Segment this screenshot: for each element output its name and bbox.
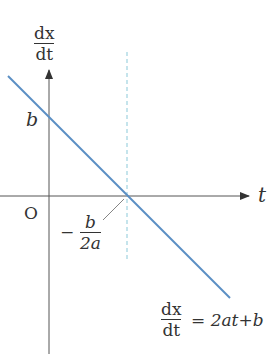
diagram: dx dt t O b − b 2a dx dt = 2at+b	[0, 0, 279, 354]
x-intercept-label: b 2a	[80, 213, 101, 252]
origin-label: O	[24, 203, 38, 223]
y-intercept-label: b	[26, 108, 38, 130]
equation-lhs: dx dt	[161, 300, 181, 339]
leader-line	[103, 199, 124, 220]
y-axis-label: dx dt	[34, 24, 54, 63]
x-axis-label: t	[258, 183, 266, 207]
equation-rhs: = 2at+b	[191, 310, 264, 330]
graph-line	[8, 76, 230, 298]
x-intercept-sign: −	[60, 222, 74, 242]
